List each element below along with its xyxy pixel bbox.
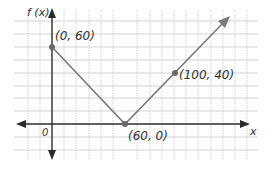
x-axis <box>16 120 250 128</box>
chart-plot: f (x) x 0 (0, 60) (60, 0) (100, 40) <box>0 0 274 170</box>
point-100-40 <box>172 70 178 76</box>
point-0-60 <box>49 44 55 50</box>
point-label-60-0: (60, 0) <box>128 129 168 143</box>
point-label-100-40: (100, 40) <box>179 68 234 82</box>
x-axis-left-arrow-icon <box>16 120 26 128</box>
x-axis-label: x <box>249 125 257 138</box>
y-axis-down-arrow-icon <box>48 150 56 160</box>
point-60-0 <box>122 121 128 127</box>
x-axis-right-arrow-icon <box>240 120 250 128</box>
y-axis-label: f (x) <box>27 6 49 19</box>
origin-label: 0 <box>42 127 48 138</box>
point-label-0-60: (0, 60) <box>55 29 95 43</box>
